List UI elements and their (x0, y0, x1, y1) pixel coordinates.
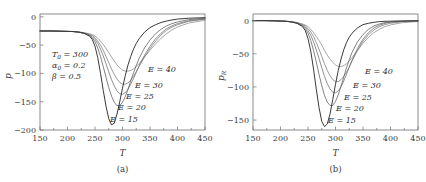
x-axis-title: T (119, 148, 126, 158)
x-tick-label: 350 (142, 134, 157, 143)
x-tick-label: 350 (355, 134, 370, 143)
y-tick-label: 0 (31, 13, 36, 22)
y-tick-label: −100 (14, 69, 36, 78)
x-tick-label: 300 (328, 134, 343, 143)
y-tick-label: −50 (232, 50, 249, 59)
svg-text:pR: pR (216, 70, 227, 81)
x-tick-label: 150 (32, 134, 47, 143)
x-tick-label: 450 (410, 134, 425, 143)
x-tick-label: 250 (87, 134, 102, 143)
panel-a: 1502002503003504004500−50−100−150−200Tp(… (0, 0, 213, 182)
x-tick-label: 300 (115, 134, 130, 143)
y-tick-label: −150 (227, 116, 249, 125)
x-tick-label: 150 (245, 134, 260, 143)
figure-container: 1502002503003504004500−50−100−150−200Tp(… (0, 0, 426, 182)
panel-caption: (b) (329, 164, 341, 174)
curve-label-e25: E = 25 (125, 92, 154, 101)
curve-label-e20: E = 20 (335, 104, 364, 113)
y-tick-label: 0 (244, 17, 249, 26)
y-tick-label: −100 (227, 83, 249, 92)
panel-b-svg: 1502002503003504004500−50−100−150TpR(b)E… (213, 0, 426, 182)
curve-label-e20: E = 20 (117, 103, 146, 112)
curve-label-e15: E = 15 (327, 116, 356, 125)
x-tick-label: 200 (60, 134, 75, 143)
annotation-0: T0 = 300 (52, 50, 88, 60)
curve-label-e40: E = 40 (364, 67, 393, 76)
annotation-2: β = 0.5 (51, 72, 81, 81)
panel-a-svg: 1502002503003504004500−50−100−150−200Tp(… (0, 0, 213, 182)
y-tick-label: −50 (19, 41, 36, 50)
x-tick-label: 450 (197, 134, 212, 143)
curve-label-e15: E = 15 (109, 115, 138, 124)
x-tick-label: 400 (383, 134, 398, 143)
panel-caption: (a) (117, 164, 129, 174)
curve-e30 (253, 21, 418, 82)
y-axis-title: p (3, 73, 13, 79)
curve-label-e40: E = 40 (147, 65, 176, 74)
panel-b: 1502002503003504004500−50−100−150TpR(b)E… (213, 0, 426, 182)
x-tick-label: 400 (170, 134, 185, 143)
annotation-1: α0 = 0.2 (52, 61, 86, 71)
curve-label-e25: E = 25 (343, 93, 372, 102)
x-axis-title: T (332, 148, 339, 158)
x-tick-label: 250 (300, 134, 315, 143)
y-tick-label: −200 (14, 126, 36, 135)
curve-e40 (253, 21, 418, 67)
y-axis-title: pR (216, 70, 227, 81)
panel-a-plot-area: 1502002503003504004500−50−100−150−200Tp(… (3, 13, 213, 174)
curve-label-e30: E = 30 (352, 81, 381, 90)
y-tick-label: −150 (14, 98, 36, 107)
panel-b-plot-area: 1502002503003504004500−50−100−150TpR(b)E… (216, 14, 426, 174)
x-tick-label: 200 (273, 134, 288, 143)
curve-label-e30: E = 30 (134, 81, 163, 90)
svg-text:p: p (3, 73, 13, 79)
